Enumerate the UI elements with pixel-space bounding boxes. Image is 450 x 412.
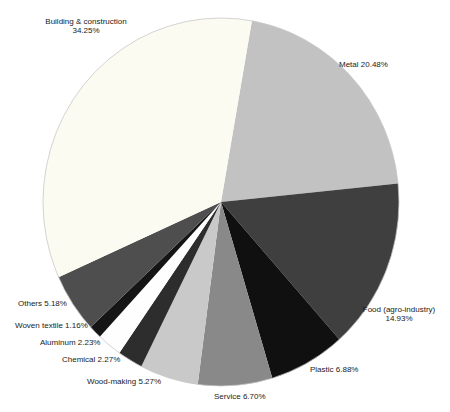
label-wood-making: Wood-making 5.27%	[87, 377, 161, 386]
label-food: Food (agro-industry) 14.93%	[363, 305, 435, 323]
pie-chart: Building & construction 34.25% Metal 20.…	[0, 0, 450, 412]
label-aluminum: Aluminum 2.23%	[40, 338, 100, 347]
label-building-line2: 34.25%	[45, 26, 126, 35]
label-plastic: Plastic 6.88%	[310, 365, 358, 374]
pie-slice-metal	[221, 21, 398, 202]
label-chemical: Chemical 2.27%	[62, 355, 120, 364]
label-food-line1: Food (agro-industry)	[363, 305, 435, 314]
label-building-line1: Building & construction	[45, 17, 126, 26]
label-food-line2: 14.93%	[363, 314, 435, 323]
label-others: Others 5.18%	[18, 299, 67, 308]
label-service: Service 6.70%	[214, 392, 266, 401]
label-metal: Metal 20.48%	[339, 60, 388, 69]
label-woven-textile: Woven textile 1.16%	[15, 321, 88, 330]
label-building-construction: Building & construction 34.25%	[45, 17, 126, 35]
